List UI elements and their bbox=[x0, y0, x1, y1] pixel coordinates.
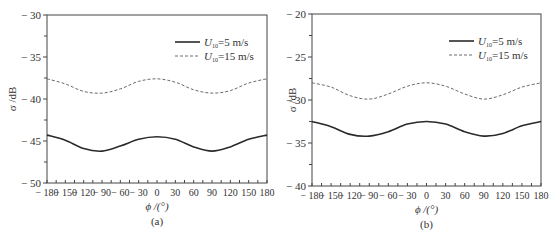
y-tick-label: − 20 bbox=[286, 8, 306, 20]
x-tick-label: − 120 bbox=[339, 190, 362, 201]
x-tick-label: 60 bbox=[460, 190, 470, 201]
x-tick-label: − 60 bbox=[379, 190, 397, 201]
x-axis-label: ϕ /(°) bbox=[415, 203, 439, 216]
x-tick-label: 120 bbox=[495, 190, 510, 201]
x-tick-label: 0 bbox=[424, 190, 429, 201]
line-chart-b: − 40− 35− 30− 25− 20− 180− 150− 120− 90−… bbox=[0, 0, 558, 238]
series-line-u10-5 bbox=[312, 122, 541, 137]
x-tick-label: − 90 bbox=[360, 190, 378, 201]
x-tick-label: 30 bbox=[441, 190, 451, 201]
y-tick-label: − 25 bbox=[286, 51, 306, 63]
legend-label: U10=5 m/s bbox=[478, 35, 522, 48]
legend-label: U10=15 m/s bbox=[478, 49, 528, 62]
x-tick-label: 90 bbox=[479, 190, 489, 201]
y-axis-label: σ /dB bbox=[286, 88, 298, 113]
y-tick-label: − 35 bbox=[286, 137, 306, 149]
series-line-u10-15 bbox=[312, 83, 541, 99]
panel-caption: (b) bbox=[420, 218, 433, 231]
x-tick-label: 180 bbox=[534, 190, 549, 201]
x-tick-label: − 30 bbox=[398, 190, 416, 201]
x-tick-label: 150 bbox=[514, 190, 529, 201]
